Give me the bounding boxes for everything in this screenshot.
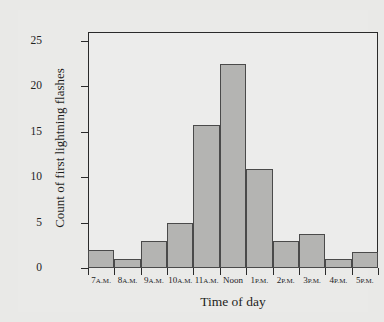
bar: [352, 252, 378, 268]
x-axis-title: Time of day: [88, 294, 378, 310]
x-axis-tick: [141, 268, 142, 275]
y-axis-tick: [81, 177, 89, 178]
x-axis-tick-label: 3P.M.: [303, 276, 321, 285]
x-axis-tick: [114, 268, 115, 275]
x-axis-tick-label: 8A.M.: [118, 276, 138, 285]
bar: [114, 259, 140, 268]
y-axis-tick-label: 15: [2, 126, 42, 138]
x-axis-tick-label: 7A.M.: [91, 276, 111, 285]
x-axis-tick-label: 2P.M.: [277, 276, 295, 285]
x-axis-tick-label: 4P.M.: [330, 276, 348, 285]
y-axis-tick-label: 5: [2, 217, 42, 229]
bar: [299, 234, 325, 268]
bar: [141, 241, 167, 268]
x-axis-tick-label: 1P.M.: [250, 276, 268, 285]
x-axis-tick: [220, 268, 221, 275]
x-axis-tick: [88, 268, 89, 275]
x-axis-tick-label: 5P.M.: [356, 276, 374, 285]
y-axis-tick: [81, 41, 89, 42]
x-axis-tick-label: 10A.M.: [168, 276, 192, 285]
x-axis-tick: [325, 268, 326, 275]
bar: [88, 250, 114, 268]
bar: [167, 223, 193, 268]
y-axis-tick-label: 0: [2, 262, 42, 274]
x-axis-tick: [378, 268, 379, 275]
x-axis-tick: [167, 268, 168, 275]
figure-inner-panel: 0510152025 7A.M.8A.M.9A.M.10A.M.11A.M.No…: [18, 10, 368, 312]
y-axis-tick-label: 10: [2, 171, 42, 183]
bars-layer: [88, 32, 378, 268]
bar: [220, 64, 246, 268]
figure-background-panel: 0510152025 7A.M.8A.M.9A.M.10A.M.11A.M.No…: [0, 0, 384, 322]
x-axis-tick: [352, 268, 353, 275]
bar: [246, 169, 272, 268]
bar: [273, 241, 299, 268]
figure-root: 0510152025 7A.M.8A.M.9A.M.10A.M.11A.M.No…: [0, 0, 384, 322]
y-axis-tick-label: 20: [2, 80, 42, 92]
y-axis-tick-label: 25: [2, 35, 42, 47]
x-axis-tick-label: Noon: [223, 276, 243, 285]
x-axis-tick: [299, 268, 300, 275]
x-axis-tick: [273, 268, 274, 275]
bar: [325, 259, 351, 268]
y-axis-title: Count of first lightning flashes: [52, 28, 68, 268]
y-axis-tick: [81, 223, 89, 224]
bar: [193, 125, 219, 268]
x-axis-tick: [246, 268, 247, 275]
x-axis-tick-label: 11A.M.: [195, 276, 219, 285]
x-axis-tick: [193, 268, 194, 275]
y-axis-tick: [81, 132, 89, 133]
x-axis-tick-label: 9A.M.: [144, 276, 164, 285]
y-axis-tick: [81, 86, 89, 87]
